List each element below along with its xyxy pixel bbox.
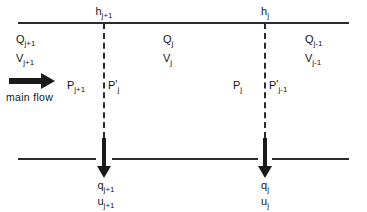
label-pressure-left-upstream: Pj+1 (67, 80, 85, 91)
main-flow-label: main flow (6, 92, 53, 103)
junction-line-right (264, 23, 266, 138)
label-head-right: hj (261, 6, 269, 17)
label-flow-left: Qj+1 (16, 34, 35, 45)
pipe-wall-bottom-segment-middle (112, 158, 258, 160)
label-pressure-right-upstream: Pj (233, 80, 242, 91)
main-flow-arrow-shaft (9, 78, 43, 84)
down-arrow-icon-left (97, 166, 111, 178)
offtake-arrow-shaft-right (263, 138, 267, 168)
label-offtake-velocity-right: uj (261, 196, 269, 207)
label-velocity-middle: Vj (163, 53, 172, 64)
offtake-arrow-shaft-left (102, 138, 106, 168)
pipeline-schematic-diagram: hj+1 hj Qj+1 Vj+1 Qj Vj Qj-1 Vj-1 Pj+1 P… (0, 0, 367, 212)
label-head-left: hj+1 (95, 6, 112, 17)
label-pressure-left-downstream: P'j (108, 80, 119, 91)
down-arrow-icon-right (258, 166, 272, 178)
label-velocity-left: Vj+1 (16, 53, 34, 64)
junction-line-left (103, 23, 105, 138)
pipe-wall-bottom-segment-right (272, 158, 349, 160)
pipe-wall-top (18, 22, 349, 24)
right-arrow-icon (41, 73, 55, 89)
label-offtake-velocity-left: uj+1 (97, 196, 114, 207)
label-pressure-right-downstream: P'j-1 (269, 80, 287, 91)
label-flow-middle: Qj (163, 34, 173, 45)
label-flow-right: Qj-1 (305, 34, 322, 45)
pipe-wall-bottom-segment-left (18, 158, 96, 160)
label-offtake-discharge-right: qj (261, 180, 269, 191)
label-velocity-right: Vj-1 (305, 53, 321, 64)
label-offtake-discharge-left: qj+1 (97, 180, 114, 191)
